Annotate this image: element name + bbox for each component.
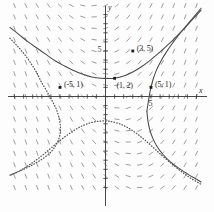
point-label-1-2: (1, 2) [117,81,133,90]
plot-canvas [0,0,214,212]
y-axis-label: y [108,3,112,12]
x-axis-label: x [199,86,203,95]
point-label-neg5-1: (-5, 1) [64,80,83,89]
point-marker-0 [131,50,134,53]
curve-solution-through-(5,1)-lower-branch [147,111,201,182]
point-marker-2 [59,86,62,89]
x-axis-tick-label-5: 5 [149,99,153,108]
y-axis-tick-label-5: 5 [98,45,102,54]
point-marker-1 [113,77,116,80]
point-marker-3 [150,86,153,89]
point-label-3-5: (3, 5) [137,44,153,53]
point-label-5-1: (5, 1) [155,80,171,89]
slope-field-plot: y x 5 5 (3, 5) (1, 2) (-5, 1) (5, 1) [0,0,214,212]
